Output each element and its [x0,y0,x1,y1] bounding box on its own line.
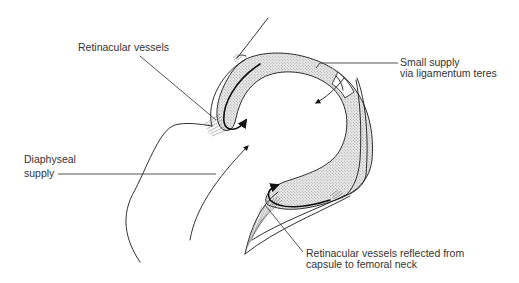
label-small-supply-line2: via ligamentum teres [400,68,497,79]
label-reflected-vessels: Retinacular vessels reflected from capsu… [306,248,464,270]
label-small-supply: Small supply via ligamentum teres [400,57,497,79]
diaphyseal-supply-arrow [190,146,248,240]
label-diaphyseal-line2: supply [24,168,76,179]
label-diaphyseal-line1: Diaphyseal [24,154,76,165]
label-retinacular-vessels: Retinacular vessels [78,42,169,53]
label-reflected-line2: capsule to femoral neck [306,259,464,270]
leader-retinacular-vessels [140,56,216,120]
femoral-outline-left [126,123,212,262]
label-diaphyseal-supply: Diaphyseal supply [24,154,76,179]
leader-reflected-vessels [265,205,303,252]
articular-cartilage-band [217,53,373,209]
labrum-upper [237,18,268,58]
